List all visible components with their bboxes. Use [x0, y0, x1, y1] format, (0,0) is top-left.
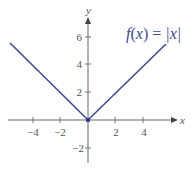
chart-canvas: −4 −2 2 4 6 4 2 −2 x y f(x) = |x|: [0, 0, 192, 172]
function-label: f(x) = |x|: [126, 25, 181, 43]
y-tick-label: 4: [77, 58, 83, 70]
x-axis-label: x: [179, 114, 185, 126]
x-tick-label: −4: [27, 126, 39, 138]
y-tick-label: −2: [72, 142, 84, 154]
x-tick-label: 2: [113, 126, 119, 138]
origin-point: [86, 118, 90, 122]
x-tick-label: 4: [141, 126, 147, 138]
y-axis-label: y: [85, 4, 91, 16]
y-tick-label: 2: [77, 86, 83, 98]
y-tick-label: 6: [77, 31, 83, 43]
abs-value-chart: −4 −2 2 4 6 4 2 −2 x y f(x) = |x|: [0, 0, 192, 172]
y-axis-arrow-icon: [85, 17, 91, 24]
x-tick-label: −2: [54, 126, 66, 138]
x-axis-arrow-icon: [171, 117, 178, 123]
